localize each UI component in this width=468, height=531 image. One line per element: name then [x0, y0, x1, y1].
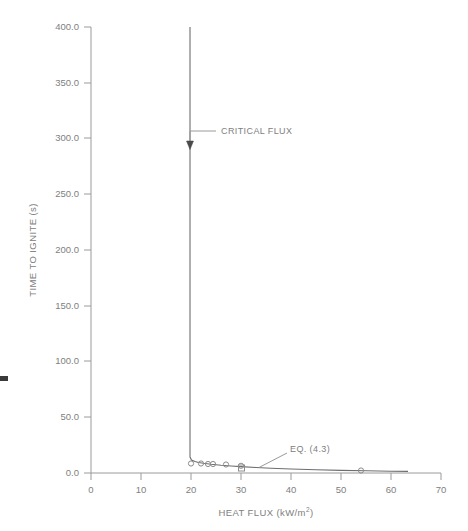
series-experimental-points	[188, 461, 363, 473]
y-tick-label-50: 50.0	[61, 411, 80, 422]
y-tick-label-300: 300.0	[55, 132, 79, 143]
y-tick-label-100: 100.0	[55, 355, 79, 366]
y-tick-label-0: 0.0	[66, 467, 79, 478]
x-axis-title-main: HEAT FLUX (kW/m	[218, 507, 305, 518]
x-axis-title-tail: )	[310, 507, 314, 518]
series-eq-4-3	[190, 27, 408, 471]
model-curve-path	[190, 27, 408, 471]
eq-4-3-leader-line	[259, 453, 287, 468]
annotation-critical-flux: CRITICAL FLUX	[187, 126, 293, 150]
x-tick-label-0: 0	[88, 484, 93, 495]
x-axis-ticks: 0 10 20 30 40 50 60 70	[88, 473, 446, 495]
critical-flux-leader-line	[190, 131, 216, 148]
x-tick-label-30: 30	[236, 484, 247, 495]
eq-4-3-label: EQ. (4.3)	[290, 444, 330, 454]
y-tick-label-250: 250.0	[55, 188, 79, 199]
x-tick-label-70: 70	[436, 484, 447, 495]
y-tick-label-400: 400.0	[55, 21, 79, 32]
page-edge-artifact	[0, 376, 8, 381]
y-tick-label-350: 350.0	[55, 77, 79, 88]
annotation-eq-4-3: EQ. (4.3)	[259, 444, 330, 468]
x-tick-label-50: 50	[336, 484, 347, 495]
x-axis-title: HEAT FLUX (kW/m2)	[218, 506, 313, 518]
y-axis-title: TIME TO IGNITE (s)	[27, 203, 38, 296]
x-tick-label-60: 60	[386, 484, 397, 495]
axes-group	[91, 27, 441, 473]
data-point-marker	[188, 461, 193, 466]
x-tick-label-10: 10	[136, 484, 147, 495]
time-to-ignite-vs-heat-flux-chart: 400.0 350.0 300.0 250.0 200.0 150.0 100.…	[0, 0, 468, 531]
chart-figure: 400.0 350.0 300.0 250.0 200.0 150.0 100.…	[0, 0, 468, 531]
x-tick-label-20: 20	[186, 484, 197, 495]
y-axis-ticks: 400.0 350.0 300.0 250.0 200.0 150.0 100.…	[55, 21, 91, 478]
y-tick-label-200: 200.0	[55, 244, 79, 255]
data-point-marker	[238, 463, 243, 468]
critical-flux-arrow-icon	[187, 141, 194, 150]
data-point-marker	[223, 462, 228, 467]
x-tick-label-40: 40	[286, 484, 297, 495]
y-tick-label-150: 150.0	[55, 300, 79, 311]
critical-flux-label: CRITICAL FLUX	[221, 126, 292, 136]
